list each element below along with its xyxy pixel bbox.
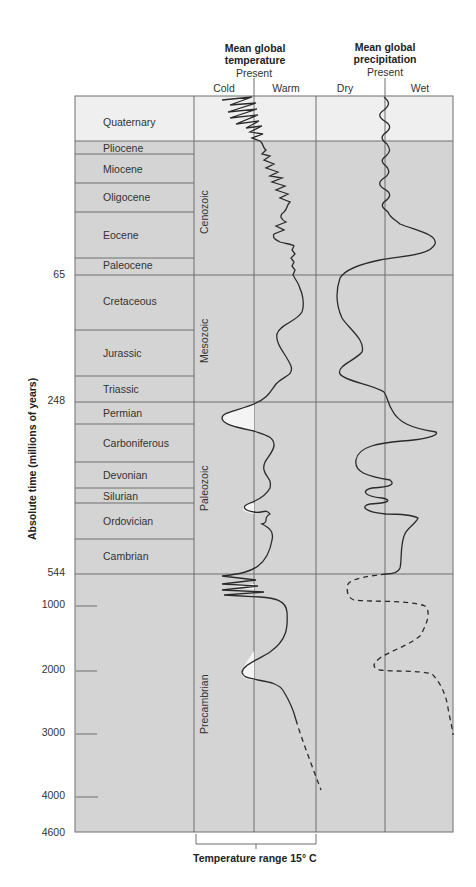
period-cambrian: Cambrian bbox=[103, 550, 149, 562]
era-paleozoic: Paleozoic bbox=[198, 465, 210, 511]
y-tick-4600: 4600 bbox=[25, 826, 65, 838]
era-cenozoic: Cenozoic bbox=[198, 190, 210, 234]
period-oligocene: Oligocene bbox=[103, 191, 150, 203]
period-pliocene: Pliocene bbox=[103, 142, 143, 154]
y-tick-1000: 1000 bbox=[25, 598, 65, 610]
period-jurassic: Jurassic bbox=[103, 347, 142, 359]
period-cretaceous: Cretaceous bbox=[103, 295, 157, 307]
period-permian: Permian bbox=[103, 407, 142, 419]
period-miocene: Miocene bbox=[103, 163, 143, 175]
period-triassic: Triassic bbox=[103, 383, 139, 395]
y-tick-2000: 2000 bbox=[25, 663, 65, 675]
era-precambrian: Precambrian bbox=[198, 674, 210, 734]
y-tick-4000: 4000 bbox=[25, 789, 65, 801]
period-quaternary: Quaternary bbox=[103, 116, 156, 128]
y-tick-544: 544 bbox=[25, 566, 65, 578]
geologic-band bbox=[75, 141, 453, 832]
y-axis-label: Absolute time (millions of years) bbox=[26, 378, 38, 540]
period-devonian: Devonian bbox=[103, 469, 147, 481]
period-silurian: Silurian bbox=[103, 490, 138, 502]
period-carboniferous: Carboniferous bbox=[103, 437, 169, 449]
y-tick-65: 65 bbox=[25, 268, 65, 280]
chart-canvas bbox=[0, 0, 476, 887]
x-axis-caption: Temperature range 15° C bbox=[193, 852, 317, 864]
period-ordovician: Ordovician bbox=[103, 515, 153, 527]
era-mesozoic: Mesozoic bbox=[198, 319, 210, 363]
y-tick-3000: 3000 bbox=[25, 726, 65, 738]
period-paleocene: Paleocene bbox=[103, 259, 153, 271]
period-eocene: Eocene bbox=[103, 229, 139, 241]
temperature-range-bracket bbox=[196, 834, 316, 849]
